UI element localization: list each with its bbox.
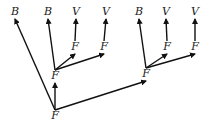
node-froot: F <box>50 109 59 122</box>
edge-fl-to-f1 <box>55 54 75 70</box>
edge-f2-to-v2 <box>104 19 106 41</box>
edge-fr-to-f4 <box>146 54 195 68</box>
tree-diagram: BBVVBVVFFFFFFF <box>0 0 211 131</box>
node-b1: B <box>10 5 19 18</box>
node-fl: F <box>50 69 59 82</box>
node-v4: V <box>191 5 200 18</box>
node-b2: B <box>43 5 52 18</box>
node-v1: V <box>72 5 81 18</box>
edge-fr-to-b3 <box>139 19 146 68</box>
edge-fr-to-f3 <box>146 54 167 68</box>
node-f2: F <box>99 40 108 53</box>
node-v2: V <box>102 5 111 18</box>
edge-f1-to-v1 <box>75 19 76 41</box>
node-f4: F <box>190 40 199 53</box>
edge-fl-to-f2 <box>55 54 104 70</box>
edge-f3-to-v3 <box>166 19 167 41</box>
node-fr: F <box>141 67 150 80</box>
edges-group <box>15 19 195 110</box>
node-f1: F <box>70 40 79 53</box>
node-v3: V <box>162 5 171 18</box>
node-b3: B <box>134 5 143 18</box>
node-f3: F <box>162 40 171 53</box>
edge-fl-to-b2 <box>48 19 55 70</box>
edge-froot-to-b1 <box>15 19 55 110</box>
edge-froot-to-fr <box>55 81 146 110</box>
